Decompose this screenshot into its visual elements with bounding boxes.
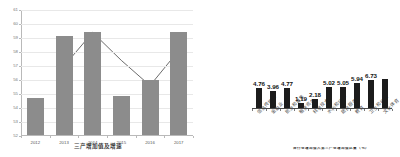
- right-chart-x-tickmark: [350, 109, 351, 111]
- left-chart-y-tick-label: 56: [13, 78, 18, 82]
- right-chart-caption: 各行业增加值占第三产业增加值比重（%）: [270, 147, 392, 151]
- left-chart-gridline: [21, 38, 193, 39]
- right-chart-value-label: 2.18: [309, 92, 321, 98]
- left-chart-gridline: [21, 94, 193, 95]
- left-chart-gridline: [21, 108, 193, 109]
- left-chart-x-tickmark: [136, 136, 137, 138]
- left-chart-y-tick-label: 61: [13, 8, 18, 12]
- left-chart-y-tick-label: 55: [13, 92, 18, 96]
- left-chart-x-tickmark: [21, 136, 22, 138]
- left-chart-gridline: [21, 122, 193, 123]
- left-chart-x-tickmark: [78, 136, 79, 138]
- right-chart-x-tickmark: [294, 109, 295, 111]
- left-chart-gridline: [21, 80, 193, 81]
- left-chart-y-tickmark: [19, 108, 21, 109]
- right-chart-x-tickmark: [266, 109, 267, 111]
- sector-growth-chart: 4.76信息传输业3.96金融业4.77批发和零售1.19租赁商务2.18科学技…: [196, 0, 392, 157]
- right-chart-value-label: 3.96: [267, 84, 279, 90]
- left-chart-bar: [170, 32, 187, 135]
- right-chart-value-label: 5.02: [323, 80, 335, 86]
- right-chart-x-tickmark: [378, 109, 379, 111]
- right-chart-value-label: 5.05: [337, 80, 349, 86]
- left-chart-bar: [142, 80, 159, 135]
- left-chart-y-tickmark: [19, 80, 21, 81]
- right-chart-bar: [368, 80, 374, 108]
- right-chart-x-tickmark: [252, 109, 253, 111]
- left-chart-y-axis: [21, 10, 22, 136]
- left-chart-title: 三产增加值及增速: [0, 144, 196, 150]
- left-chart-x-tickmark: [107, 136, 108, 138]
- left-chart-gridline: [21, 24, 193, 25]
- right-chart-bar: [354, 83, 360, 108]
- left-chart-bar: [56, 36, 73, 135]
- right-chart-value-label: 1.19: [295, 96, 307, 102]
- right-chart-x-tickmark: [392, 109, 393, 111]
- left-chart-y-tickmark: [19, 38, 21, 39]
- left-chart-y-tick-label: 52: [13, 134, 18, 138]
- right-chart-value-label: 6.73: [365, 73, 377, 79]
- right-chart-x-tickmark: [322, 109, 323, 111]
- left-chart-y-tick-label: 60: [13, 22, 18, 26]
- left-chart-y-tick-label: 57: [13, 64, 18, 68]
- right-chart-bar: [382, 79, 388, 108]
- left-chart-gridline: [21, 52, 193, 53]
- left-chart-plot-area: 5253545556575859606120122013201420152016…: [21, 10, 193, 136]
- left-chart-bar: [27, 98, 44, 135]
- left-chart-y-tickmark: [19, 94, 21, 95]
- right-chart-x-tickmark: [336, 109, 337, 111]
- left-chart-gridline: [21, 66, 193, 67]
- right-chart-x-tickmark: [364, 109, 365, 111]
- tertiary-industry-chart: 5253545556575859606120122013201420152016…: [0, 0, 196, 157]
- left-chart-y-tick-label: 53: [13, 120, 18, 124]
- right-chart-x-tickmark: [308, 109, 309, 111]
- left-chart-gridline: [21, 10, 193, 11]
- left-chart-y-tick-label: 54: [13, 106, 18, 110]
- left-chart-x-tickmark: [193, 136, 194, 138]
- left-chart-x-tickmark: [164, 136, 165, 138]
- left-chart-y-tickmark: [19, 24, 21, 25]
- left-chart-y-tickmark: [19, 52, 21, 53]
- right-chart-x-tickmark: [280, 109, 281, 111]
- right-chart-plot-area: 4.76信息传输业3.96金融业4.77批发和零售1.19租赁商务2.18科学技…: [252, 78, 392, 109]
- left-chart-y-tick-label: 58: [13, 50, 18, 54]
- left-chart-y-tickmark: [19, 10, 21, 11]
- left-chart-bar: [84, 32, 101, 135]
- right-chart-value-label: 5.94: [351, 76, 363, 82]
- left-chart-y-tickmark: [19, 66, 21, 67]
- left-chart-growth-line: [21, 10, 193, 136]
- right-chart-value-label: 4.76: [253, 81, 265, 87]
- left-chart-line-path: [64, 32, 179, 85]
- left-chart-bar: [113, 96, 130, 135]
- left-chart-y-tickmark: [19, 122, 21, 123]
- left-chart-x-tickmark: [50, 136, 51, 138]
- right-chart-value-label: 4.77: [281, 81, 293, 87]
- left-chart-y-tick-label: 59: [13, 36, 18, 40]
